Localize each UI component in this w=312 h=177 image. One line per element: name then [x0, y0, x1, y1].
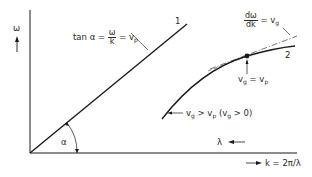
vg-subscript: g — [275, 19, 279, 26]
phase-velocity-equation: tan α = ω k = vp — [73, 29, 138, 46]
tan-alpha-text: tan α = — [73, 32, 105, 42]
vp-text: = v — [119, 32, 134, 42]
equal-point-arrowhead — [246, 59, 249, 64]
eq-v-text: = v — [247, 74, 265, 84]
alpha-arc-arrow-bottom — [75, 149, 79, 153]
vg-leader — [283, 28, 290, 35]
frac-denominator: dk — [245, 21, 257, 29]
group-velocity-equation: dω dk = vg — [244, 12, 279, 29]
vp-subscript: p — [134, 36, 138, 43]
omega-axis-label: ω — [13, 24, 20, 33]
alpha-label: α — [61, 138, 67, 147]
vg-text: = v — [260, 15, 275, 25]
frac-denominator: k — [109, 38, 116, 46]
condition-label: vg > vp (vg > 0) — [186, 109, 252, 119]
tangent-line — [210, 36, 297, 69]
omega-arrow-icon — [15, 36, 19, 52]
omega-over-k-fraction: ω k — [108, 29, 117, 46]
k-arrowhead — [256, 161, 262, 165]
k-label: k = 2π/λ — [265, 159, 301, 168]
paren-open-text: (v — [216, 108, 227, 118]
equal-point-label: vg = vp — [238, 75, 268, 85]
curve-2-label: 2 — [285, 51, 290, 60]
lambda-label: λ — [217, 138, 222, 147]
lambda-arrowhead — [228, 140, 234, 144]
paren-close-text: > 0) — [231, 108, 252, 118]
tangent-point — [245, 54, 250, 59]
alpha-arc — [67, 123, 77, 153]
domega-dk-fraction: dω dk — [244, 12, 258, 29]
gt-v-text: > v — [195, 108, 213, 118]
curve-1-label: 1 — [175, 17, 180, 26]
p-subscript: p — [264, 78, 268, 85]
